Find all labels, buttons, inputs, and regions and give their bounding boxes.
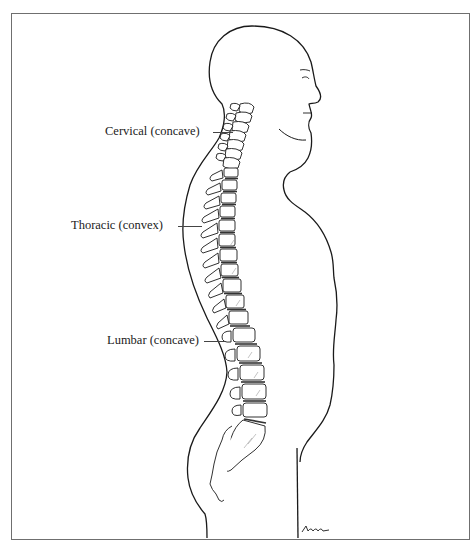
leader-line-thoracic bbox=[178, 226, 202, 227]
cervical-vertebrae bbox=[216, 103, 254, 169]
leader-line-lumbar bbox=[204, 341, 226, 342]
spine-body-illustration bbox=[0, 0, 475, 548]
vertebral-column bbox=[201, 103, 267, 502]
leader-line-cervical bbox=[213, 132, 233, 133]
label-lumbar: Lumbar (concave) bbox=[107, 333, 199, 347]
lumbar-vertebrae bbox=[222, 328, 267, 417]
neck-front-outline bbox=[283, 172, 337, 462]
front-leg-outline bbox=[297, 448, 298, 538]
jaw-line bbox=[279, 129, 306, 140]
label-thoracic: Thoracic (convex) bbox=[71, 218, 163, 232]
eye-detail bbox=[300, 70, 310, 79]
artist-signature bbox=[302, 526, 329, 532]
face-outline bbox=[252, 26, 320, 172]
label-cervical: Cervical (concave) bbox=[105, 124, 200, 138]
sacrum-coccyx bbox=[210, 420, 265, 502]
